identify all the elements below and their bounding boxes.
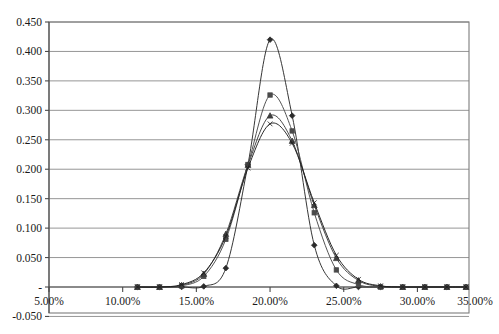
- y-axis-label: 0.400: [16, 45, 42, 57]
- data-point-marker: [223, 265, 229, 271]
- x-axis-ticks: [49, 287, 417, 292]
- data-point-marker: [311, 242, 317, 248]
- y-axis-label: 0.350: [16, 75, 42, 87]
- series-2: [135, 93, 468, 289]
- x-axis-label: 35.00%: [457, 295, 493, 307]
- y-axis-label: 0.200: [16, 163, 42, 175]
- series-4: [135, 121, 468, 289]
- y-axis-label: 0.300: [16, 104, 42, 116]
- y-axis-ticks: [45, 22, 49, 316]
- y-axis-label: 0.250: [16, 134, 42, 146]
- chart-container: 0.4500.4000.3500.3000.2500.2000.1500.100…: [0, 0, 499, 334]
- y-axis-label: -: [38, 281, 42, 293]
- data-point-marker: [334, 268, 338, 272]
- x-axis-label: 25.00%: [326, 295, 362, 307]
- distribution-line-chart: 0.4500.4000.3500.3000.2500.2000.1500.100…: [0, 0, 499, 334]
- x-axis-labels: 5.00%10.00%15.00%20.00%25.00%30.00%35.00…: [34, 295, 493, 307]
- data-point-marker: [268, 121, 273, 126]
- data-point-marker: [268, 93, 272, 97]
- series-line-3: [137, 115, 466, 287]
- x-axis-label: 5.00%: [34, 295, 64, 307]
- plot-frame: [49, 22, 469, 313]
- y-axis-label: 0.150: [16, 193, 42, 205]
- x-axis-label: 15.00%: [179, 295, 215, 307]
- x-axis-label: 20.00%: [252, 295, 288, 307]
- x-axis-label: 30.00%: [400, 295, 436, 307]
- y-axis-label: -0.050: [12, 310, 42, 322]
- y-axis-label: 0.050: [16, 252, 42, 264]
- x-axis-label: 10.00%: [105, 295, 141, 307]
- data-point-marker: [290, 129, 294, 133]
- data-point-marker: [289, 113, 295, 119]
- data-point-marker: [201, 284, 207, 290]
- y-axis-label: 0.100: [16, 222, 42, 234]
- plot-border: [49, 22, 469, 313]
- series-line-2: [137, 94, 466, 287]
- data-point-marker: [267, 37, 273, 43]
- gridlines: [49, 22, 469, 316]
- data-series: [135, 37, 469, 290]
- series-line-4: [137, 123, 466, 287]
- data-point-marker: [312, 211, 316, 215]
- series-3: [135, 113, 469, 290]
- y-axis-label: 0.450: [16, 16, 42, 28]
- y-axis-labels: 0.4500.4000.3500.3000.2500.2000.1500.100…: [12, 16, 42, 322]
